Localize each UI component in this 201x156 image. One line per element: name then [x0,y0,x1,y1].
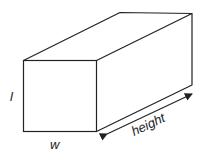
top-face [24,13,193,61]
side-face [97,14,193,132]
length-label: l [10,89,14,104]
width-label: w [50,137,61,152]
prism-diagram: l w height [0,0,201,156]
front-face [24,61,97,132]
